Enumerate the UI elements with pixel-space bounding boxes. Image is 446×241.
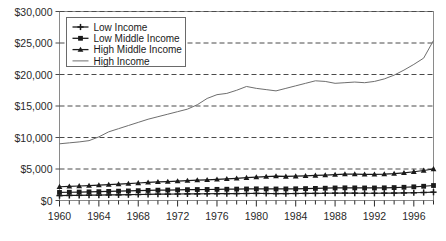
marker-low-middle-income-1968 xyxy=(136,188,141,193)
y-axis-label-5000: $5,000 xyxy=(20,163,52,175)
y-axis-label-30000: $30,000 xyxy=(15,6,53,18)
marker-low-middle-income-1998 xyxy=(431,183,436,188)
marker-low-middle-income-1965 xyxy=(106,189,111,194)
legend-label-high-income: High Income xyxy=(94,56,151,67)
marker-low-middle-income-1960 xyxy=(57,190,62,195)
marker-low-middle-income-1993 xyxy=(382,185,387,190)
y-axis-label-25000: $25,000 xyxy=(15,37,53,49)
x-axis-label-1976: 1976 xyxy=(205,210,229,222)
marker-low-middle-income-1985 xyxy=(303,186,308,191)
marker-low-middle-income-1994 xyxy=(392,185,397,190)
legend-label-low-income: Low Income xyxy=(94,22,148,33)
marker-low-middle-income-1989 xyxy=(343,185,348,190)
y-axis-label-0: $0 xyxy=(41,195,53,207)
marker-low-middle-income-1975 xyxy=(205,187,210,192)
marker-low-middle-income-1970 xyxy=(156,188,161,193)
y-axis-label-15000: $15,000 xyxy=(15,100,53,112)
marker-low-middle-income-1991 xyxy=(362,186,367,191)
x-axis-label-1996: 1996 xyxy=(402,210,426,222)
marker-low-middle-income-1995 xyxy=(402,185,407,190)
line-chart-canvas: $0$5,000$10,000$15,000$20,000$25,000$30,… xyxy=(0,0,446,241)
marker-low-middle-income-1963 xyxy=(87,189,92,194)
marker-low-middle-income-1988 xyxy=(333,186,338,191)
x-axis-label-1992: 1992 xyxy=(363,210,387,222)
marker-low-middle-income-1973 xyxy=(185,187,190,192)
marker-low-middle-income-1987 xyxy=(323,186,328,191)
legend-label-high-middle-income: High Middle Income xyxy=(94,44,183,55)
x-axis-label-1980: 1980 xyxy=(245,210,269,222)
x-axis-label-1988: 1988 xyxy=(323,210,347,222)
marker-low-middle-income-1961 xyxy=(67,190,72,195)
x-axis-label-1972: 1972 xyxy=(166,210,190,222)
marker-low-middle-income-1980 xyxy=(254,186,259,191)
marker-low-middle-income-1979 xyxy=(244,187,249,192)
x-axis-label-1960: 1960 xyxy=(48,210,72,222)
marker-low-middle-income-1977 xyxy=(224,187,229,192)
legend-label-low-middle-income: Low Middle Income xyxy=(94,33,181,44)
marker-low-middle-income-1962 xyxy=(77,190,82,195)
marker-low-middle-income-1966 xyxy=(116,189,121,194)
marker-low-middle-income-1981 xyxy=(264,187,269,192)
marker-low-middle-income-1978 xyxy=(234,187,239,192)
marker-low-middle-income-1983 xyxy=(283,187,288,192)
marker-low-middle-income-1974 xyxy=(195,187,200,192)
marker-low-middle-income-1986 xyxy=(313,186,318,191)
chart-figure: $0$5,000$10,000$15,000$20,000$25,000$30,… xyxy=(0,0,446,241)
x-axis-label-1964: 1964 xyxy=(87,210,111,222)
marker-low-middle-income-1992 xyxy=(372,186,377,191)
marker-low-middle-income-1964 xyxy=(96,189,101,194)
marker-low-middle-income-1984 xyxy=(293,186,298,191)
legend-marker-low-middle-income xyxy=(78,36,83,41)
marker-low-middle-income-1990 xyxy=(352,186,357,191)
marker-low-middle-income-1971 xyxy=(165,188,170,193)
x-axis-label-1984: 1984 xyxy=(284,210,308,222)
marker-low-middle-income-1976 xyxy=(215,187,220,192)
marker-low-middle-income-1997 xyxy=(421,184,426,189)
x-axis-label-1968: 1968 xyxy=(127,210,151,222)
marker-low-middle-income-1996 xyxy=(411,184,416,189)
y-axis-label-20000: $20,000 xyxy=(15,69,53,81)
marker-low-middle-income-1967 xyxy=(126,189,131,194)
marker-low-middle-income-1969 xyxy=(146,188,151,193)
marker-low-middle-income-1972 xyxy=(175,187,180,192)
marker-low-middle-income-1982 xyxy=(274,187,279,192)
y-axis-label-10000: $10,000 xyxy=(15,132,53,144)
